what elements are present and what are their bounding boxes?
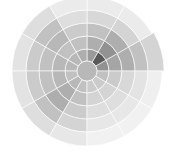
center-cell — [77, 61, 97, 81]
polar-heatmap-chart — [0, 0, 170, 153]
